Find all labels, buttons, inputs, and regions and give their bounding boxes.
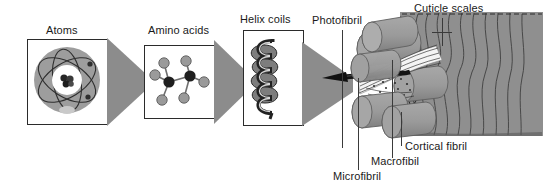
panel-title-helix-coils: Helix coils	[240, 13, 291, 25]
panel-amino-acids	[144, 45, 216, 119]
funnel-triangle-icon	[107, 38, 147, 126]
label-cuticle-scales: Cuticle scales	[414, 2, 483, 14]
panel-title-amino-acids: Amino acids	[148, 24, 209, 36]
panel-title-atoms: Atoms	[46, 24, 78, 36]
leader-line-cuticle-scales-tick	[432, 32, 452, 33]
funnel-atoms-to-amino	[107, 38, 147, 126]
label-macrofibil: Macrofibil	[371, 155, 419, 167]
panel-atoms	[27, 39, 108, 125]
leader-line-cortical-fibril	[401, 112, 402, 146]
hair-fiber-structure-diagram: Atoms Amino acids	[0, 0, 543, 189]
label-cortical-fibril: Cortical fibril	[405, 140, 467, 152]
panel-helix-coils	[243, 30, 304, 126]
molecule-ball-stick-icon	[145, 46, 215, 118]
alpha-helix-coil-icon	[244, 31, 303, 125]
atom-orbit-icon	[28, 40, 107, 124]
leader-line-photofibril	[342, 30, 343, 148]
leader-line-microfibril	[358, 78, 359, 170]
label-photofibril: Photofibril	[312, 14, 362, 26]
label-microfibril: Microfibril	[333, 170, 381, 182]
leader-line-macrofibil	[392, 60, 393, 158]
